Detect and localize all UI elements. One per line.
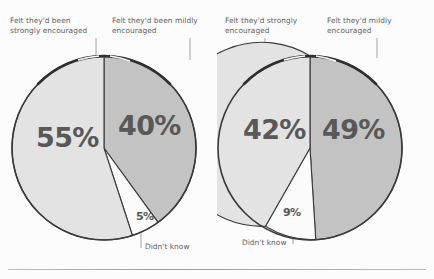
bottom-divider [8, 269, 426, 270]
label-strongly-encouraged: Felt they'd strongly encouraged [225, 16, 297, 36]
pie-chart-figure: Felt they'd been strongly encouraged Fel… [0, 0, 434, 279]
label-mildly-encouraged: Felt they'd been mildly encouraged [112, 16, 198, 36]
left-pie-graphic [0, 0, 217, 279]
label-didnt-know: Didn't know [242, 238, 286, 248]
label-strongly-encouraged: Felt they'd been strongly encouraged [10, 16, 87, 36]
value-strongly-encouraged: 42% [243, 114, 306, 145]
left-pie-chart: Felt they'd been strongly encouraged Fel… [0, 0, 217, 279]
value-didnt-know: 9% [283, 206, 300, 219]
right-pie-chart: Felt they'd strongly encouraged Felt the… [217, 0, 434, 279]
slice-mild-encouraged [310, 56, 402, 240]
value-mildly-encouraged: 49% [322, 114, 385, 145]
value-mildly-encouraged: 40% [118, 110, 181, 141]
label-mildly-encouraged: Felt they'd mildly encouraged [327, 16, 392, 36]
value-strongly-encouraged: 55% [36, 122, 99, 153]
label-didnt-know: Didn't know [145, 242, 189, 252]
value-didnt-know: 5% [136, 210, 153, 223]
